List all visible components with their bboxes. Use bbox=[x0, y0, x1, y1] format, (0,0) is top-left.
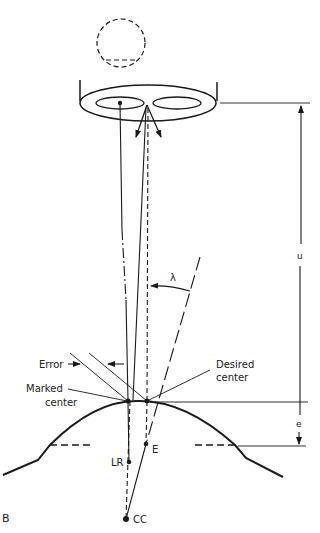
keratometer-diagram: λ Error Marked center Desired center u e… bbox=[0, 0, 320, 533]
error-line-right bbox=[89, 353, 147, 401]
cornea-profile bbox=[3, 401, 283, 477]
pupillary-axis-dashed bbox=[147, 108, 148, 401]
lambda-angle-arrow bbox=[151, 286, 190, 291]
point-cc bbox=[123, 516, 129, 522]
marked-center-label-1: Marked bbox=[26, 383, 63, 394]
error-label: Error bbox=[39, 359, 64, 370]
desired-center-point bbox=[145, 399, 150, 404]
point-lr-label: LR bbox=[111, 457, 124, 468]
point-cc-label: CC bbox=[133, 514, 147, 525]
error-line-left bbox=[70, 353, 128, 401]
lambda-label: λ bbox=[170, 272, 176, 283]
point-e-label: E bbox=[152, 444, 158, 455]
desired-center-label-2: center bbox=[216, 372, 249, 383]
right-aperture-ellipse bbox=[153, 97, 201, 109]
reflex-line bbox=[133, 108, 146, 400]
dimension-line bbox=[299, 106, 301, 444]
line-of-sight bbox=[120, 103, 129, 462]
desired-center-label-1: Desired bbox=[216, 359, 254, 370]
panel-label: B bbox=[2, 512, 10, 525]
point-e bbox=[144, 442, 149, 447]
observer-eye-dashed-circle bbox=[97, 19, 145, 67]
point-lr bbox=[127, 460, 132, 465]
marked-center-label-2: center bbox=[45, 397, 78, 408]
e-label: e bbox=[296, 419, 302, 429]
marked-center-point bbox=[126, 399, 131, 404]
desired-center-leader bbox=[149, 370, 210, 400]
u-label: u bbox=[297, 251, 303, 261]
instrument-aperture bbox=[80, 80, 217, 121]
